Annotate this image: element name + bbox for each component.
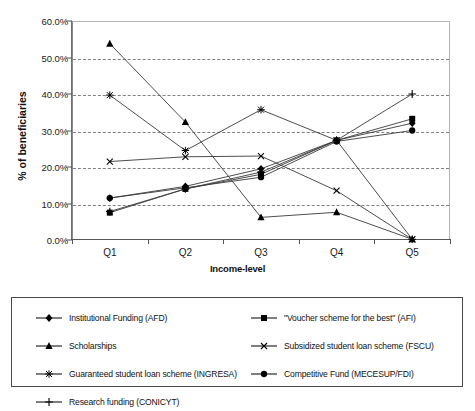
data-point-marker — [257, 106, 265, 114]
data-point-marker — [408, 236, 416, 244]
legend-item[interactable]: Institutional Funding (AFD) — [12, 304, 237, 332]
series-line — [110, 123, 412, 198]
plot-container: 0.0%10.0%20.0%30.0%40.0%50.0%60.0% Q1Q2Q… — [0, 0, 475, 285]
data-point-marker — [107, 195, 113, 201]
x-axis-title: Income-level — [0, 263, 475, 274]
legend-label: Scholarships — [69, 341, 116, 351]
legend-key-plus-icon — [34, 396, 64, 408]
series-1 — [106, 119, 415, 202]
legend-empty-cell — [237, 388, 462, 411]
legend-item[interactable]: Scholarships — [12, 332, 237, 360]
legend-label: Research funding (CONICYT) — [69, 397, 179, 407]
data-point-marker — [333, 208, 340, 215]
data-point-marker — [182, 147, 190, 155]
legend-label: Guaranteed student loan scheme (INGRESA) — [69, 369, 237, 379]
data-point-marker — [106, 91, 114, 99]
legend-item[interactable]: Research funding (CONICYT) — [12, 388, 237, 411]
legend-label: Competitive Fund (MECESUP/FDI) — [284, 369, 414, 379]
legend-item[interactable]: Guaranteed student loan scheme (INGRESA) — [12, 360, 237, 388]
legend-key-cross-icon — [249, 340, 279, 352]
y-axis-title: % of beneficiaries — [16, 56, 28, 216]
data-point-marker — [106, 40, 113, 47]
legend-key-square-icon — [249, 312, 279, 324]
legend: Institutional Funding (AFD)"Voucher sche… — [11, 297, 463, 387]
legend-item[interactable]: Subsidized student loan scheme (FSCU) — [237, 332, 462, 360]
series-6 — [107, 127, 416, 201]
data-point-marker — [409, 127, 415, 133]
legend-label: "Voucher scheme for the best" (AFI) — [284, 313, 416, 323]
legend-label: Institutional Funding (AFD) — [69, 313, 167, 323]
data-point-marker — [408, 90, 416, 98]
series-lines-layer — [0, 0, 475, 285]
legend-key-star-icon — [34, 368, 64, 380]
legend-item[interactable]: "Voucher scheme for the best" (AFI) — [237, 304, 462, 332]
legend-key-triangle-icon — [34, 340, 64, 352]
data-point-marker — [334, 188, 340, 194]
series-line — [110, 131, 412, 199]
data-point-marker — [409, 116, 415, 122]
legend-item[interactable]: Competitive Fund (MECESUP/FDI) — [237, 360, 462, 388]
legend-key-diamond-icon — [34, 312, 64, 324]
legend-key-circle-icon — [249, 368, 279, 380]
legend-label: Subsidized student loan scheme (FSCU) — [284, 341, 434, 351]
